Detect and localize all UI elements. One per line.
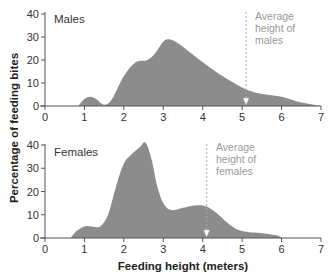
males-panel-label: Males: [54, 13, 85, 25]
y-tick-label: 20: [27, 186, 39, 198]
females-panel-label: Females: [54, 146, 98, 158]
x-tick-label: 3: [160, 111, 166, 123]
y-tick-label: 40: [27, 139, 39, 151]
x-tick-label: 6: [279, 111, 285, 123]
x-tick-label: 5: [239, 243, 245, 255]
males-y-ticks: 010203040: [27, 8, 45, 112]
x-tick-label: 4: [200, 243, 206, 255]
y-tick-label: 10: [27, 209, 39, 221]
x-tick-label: 2: [121, 243, 127, 255]
x-axis-title: Feeding height (meters): [118, 260, 249, 272]
female-average-label: Average height of females: [216, 141, 259, 177]
x-tick-label: 5: [239, 111, 245, 123]
x-tick-label: 7: [318, 243, 324, 255]
x-tick-label: 3: [160, 243, 166, 255]
feeding-height-chart: 010203040 01234567 Males Average height …: [0, 0, 331, 278]
y-tick-label: 0: [33, 100, 39, 112]
y-tick-label: 20: [27, 54, 39, 66]
males-x-ticks: 01234567: [42, 106, 324, 123]
y-tick-label: 30: [27, 162, 39, 174]
x-tick-label: 0: [42, 243, 48, 255]
y-axis-title: Percentage of feeding bites: [8, 53, 20, 203]
females-y-ticks: 010203040: [27, 139, 45, 244]
x-tick-label: 1: [81, 111, 87, 123]
x-tick-label: 1: [81, 243, 87, 255]
x-tick-label: 0: [42, 111, 48, 123]
x-tick-label: 7: [318, 111, 324, 123]
x-tick-label: 6: [279, 243, 285, 255]
males-area: [79, 39, 321, 106]
females-panel: 010203040 01234567 Females Average heigh…: [27, 139, 324, 255]
females-x-ticks: 01234567: [42, 238, 324, 255]
y-tick-label: 40: [27, 8, 39, 20]
x-tick-label: 2: [121, 111, 127, 123]
y-tick-label: 0: [33, 232, 39, 244]
y-tick-label: 30: [27, 31, 39, 43]
males-panel: 010203040 01234567 Males Average height …: [27, 8, 324, 123]
x-tick-label: 4: [200, 111, 206, 123]
y-tick-label: 10: [27, 77, 39, 89]
male-average-label: Average height of males: [255, 10, 298, 46]
